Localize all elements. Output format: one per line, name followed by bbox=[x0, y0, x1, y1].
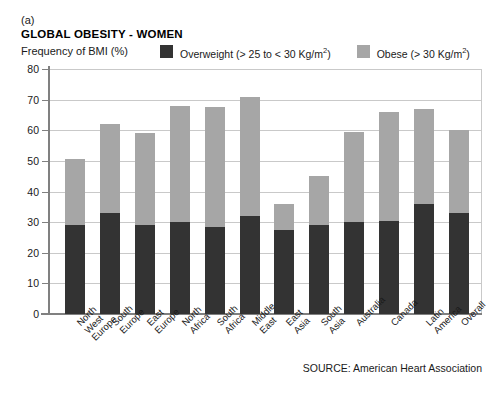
bar-segment-obese bbox=[274, 204, 294, 230]
plot-area: 01020304050607080 bbox=[48, 69, 482, 314]
legend-label-obese: Obese (> 30 Kg/m2) bbox=[377, 44, 470, 61]
stacked-bar[interactable] bbox=[135, 133, 155, 314]
legend-swatch-obese bbox=[357, 45, 370, 58]
y-tick-label: 20 bbox=[27, 247, 39, 259]
y-tick-label: 50 bbox=[27, 155, 39, 167]
x-label-slot: MiddleEast bbox=[232, 316, 267, 376]
stacked-bar[interactable] bbox=[65, 159, 85, 314]
bar-group bbox=[48, 69, 482, 314]
bar-segment-obese bbox=[205, 107, 225, 226]
stacked-bar[interactable] bbox=[100, 124, 120, 314]
legend-item-obese: Obese (> 30 Kg/m2) bbox=[357, 44, 470, 61]
bar-slot bbox=[267, 69, 302, 314]
bar-segment-overweight bbox=[170, 222, 190, 314]
source-note: SOURCE: American Heart Association bbox=[303, 362, 482, 374]
y-tick-label: 60 bbox=[27, 124, 39, 136]
bar-segment-obese bbox=[309, 176, 329, 225]
y-tick-label: 40 bbox=[27, 186, 39, 198]
legend-label-overweight: Overweight (> 25 to < 30 Kg/m2) bbox=[180, 44, 331, 61]
bar-slot bbox=[58, 69, 93, 314]
chart-legend: Overweight (> 25 to < 30 Kg/m2) Obese (>… bbox=[160, 44, 470, 61]
bar-segment-overweight bbox=[65, 225, 85, 314]
bar-segment-obese bbox=[135, 133, 155, 225]
stacked-bar[interactable] bbox=[309, 176, 329, 314]
y-axis-label: Frequency of BMI (%) bbox=[21, 45, 128, 57]
bar-slot bbox=[162, 69, 197, 314]
bar-segment-obese bbox=[344, 132, 364, 222]
x-label-slot: SouthAfrica bbox=[197, 316, 232, 376]
y-tick-label: 10 bbox=[27, 277, 39, 289]
x-label-slot: SouthEurope bbox=[93, 316, 128, 376]
bar-segment-overweight bbox=[135, 225, 155, 314]
stacked-bar[interactable] bbox=[240, 97, 260, 314]
y-tick-label: 30 bbox=[27, 216, 39, 228]
bar-segment-obese bbox=[449, 130, 469, 213]
y-tick-label: 70 bbox=[27, 94, 39, 106]
bar-slot bbox=[371, 69, 406, 314]
legend-swatch-overweight bbox=[160, 45, 173, 58]
bar-slot bbox=[197, 69, 232, 314]
bar-slot bbox=[441, 69, 476, 314]
y-tick-label: 0 bbox=[33, 308, 39, 320]
y-tick-label: 80 bbox=[27, 63, 39, 75]
bar-segment-obese bbox=[100, 124, 120, 213]
bar-slot bbox=[128, 69, 163, 314]
bar-segment-obese bbox=[414, 109, 434, 204]
bar-slot bbox=[406, 69, 441, 314]
bar-slot bbox=[337, 69, 372, 314]
panel-letter: (a) bbox=[21, 14, 34, 26]
stacked-bar[interactable] bbox=[274, 204, 294, 314]
bar-segment-obese bbox=[65, 159, 85, 225]
bar-segment-obese bbox=[379, 112, 399, 221]
stacked-bar[interactable] bbox=[205, 107, 225, 314]
bar-segment-overweight bbox=[274, 230, 294, 314]
bar-slot bbox=[302, 69, 337, 314]
x-label-slot: NorthWestEurope bbox=[58, 316, 93, 376]
x-label-slot: EastEurope bbox=[128, 316, 163, 376]
stacked-bar[interactable] bbox=[379, 112, 399, 314]
bar-segment-obese bbox=[240, 97, 260, 216]
bar-segment-overweight bbox=[414, 204, 434, 314]
bar-segment-overweight bbox=[100, 213, 120, 314]
stacked-bar[interactable] bbox=[414, 109, 434, 314]
stacked-bar[interactable] bbox=[170, 106, 190, 314]
bar-segment-overweight bbox=[344, 222, 364, 314]
x-label-slot: EastAsia bbox=[267, 316, 302, 376]
figure-panel: (a) GLOBAL OBESITY - WOMEN Frequency of … bbox=[0, 0, 502, 396]
chart-title: GLOBAL OBESITY - WOMEN bbox=[21, 28, 183, 40]
bar-segment-overweight bbox=[205, 227, 225, 314]
stacked-bar[interactable] bbox=[344, 132, 364, 314]
bar-slot bbox=[232, 69, 267, 314]
bar-segment-overweight bbox=[309, 225, 329, 314]
bar-slot bbox=[93, 69, 128, 314]
stacked-bar[interactable] bbox=[449, 130, 469, 314]
bar-segment-overweight bbox=[240, 216, 260, 314]
x-label-slot: NorthAfrica bbox=[162, 316, 197, 376]
legend-item-overweight: Overweight (> 25 to < 30 Kg/m2) bbox=[160, 44, 331, 61]
bar-segment-obese bbox=[170, 106, 190, 222]
